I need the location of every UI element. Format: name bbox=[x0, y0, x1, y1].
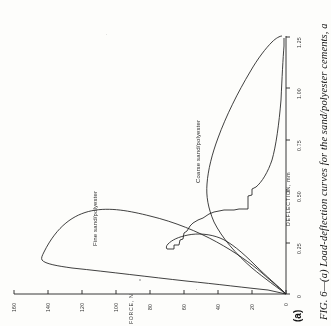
force-axis-title: FORCE, N bbox=[128, 294, 134, 324]
annotation-fine-sand-polyester: Fine sand/polyester bbox=[92, 191, 98, 246]
annotation-coarse-sand-polyester: Coarse sand/polyester bbox=[195, 120, 201, 183]
force-tick-140: 140 bbox=[45, 303, 51, 312]
force-tick-160: 160 bbox=[11, 303, 17, 312]
deflection-axis bbox=[286, 36, 290, 294]
curve-coarse-sand-polyester bbox=[166, 38, 286, 294]
scan-speck bbox=[139, 279, 141, 281]
force-tick-20: 20 bbox=[249, 304, 255, 310]
deflection-axis-title: DEFLECTION, mm bbox=[285, 172, 291, 226]
force-tick-100: 100 bbox=[113, 303, 119, 312]
deflection-tick-050: 0.50 bbox=[296, 191, 302, 202]
panel-marker-a: (a) bbox=[292, 310, 303, 322]
scanned-figure-page: 160 140 120 100 80 60 40 20 0 FORCE, N 0… bbox=[0, 0, 331, 326]
deflection-tick-0: 0 bbox=[296, 295, 302, 298]
force-tick-60: 60 bbox=[181, 304, 187, 310]
plot-area: 160 140 120 100 80 60 40 20 0 FORCE, N 0… bbox=[0, 0, 331, 326]
force-tick-0: 0 bbox=[283, 303, 289, 306]
force-axis bbox=[14, 290, 286, 294]
figure-caption: FIG. 6—(a) Load-deflection curves for th… bbox=[318, 23, 329, 320]
deflection-tick-025: 0.25 bbox=[296, 243, 302, 254]
deflection-tick-125: 1.25 bbox=[296, 37, 302, 48]
deflection-tick-075: 0.75 bbox=[296, 140, 302, 151]
force-tick-40: 40 bbox=[215, 304, 221, 310]
force-tick-120: 120 bbox=[79, 303, 85, 312]
load-deflection-chart bbox=[0, 0, 331, 326]
curve-fine-sand-polyester bbox=[42, 36, 286, 294]
deflection-tick-100: 1.00 bbox=[296, 88, 302, 99]
force-tick-80: 80 bbox=[147, 304, 153, 310]
